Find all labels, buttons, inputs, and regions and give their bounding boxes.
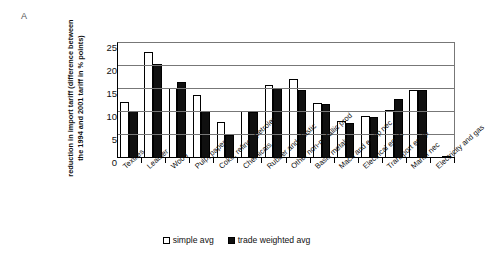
bar-group — [166, 43, 190, 158]
bar-simple-avg — [169, 88, 178, 158]
y-tick-label: 15 — [87, 88, 117, 89]
y-axis-ticks: 0510152025 — [83, 42, 117, 158]
bar-simple-avg — [193, 95, 202, 158]
legend-label-trade-weighted-avg: trade weighted avg — [238, 235, 311, 245]
gridline — [118, 111, 455, 112]
bar-group — [190, 43, 214, 158]
gridline — [118, 42, 455, 43]
gridline — [118, 88, 455, 89]
legend-label-simple-avg: simple avg — [173, 235, 214, 245]
panel-letter: A — [21, 11, 28, 21]
plot-right-edge — [454, 43, 455, 158]
legend-item-simple-avg: simple avg — [163, 235, 214, 245]
bars-container — [118, 43, 455, 158]
bar-trade-weighted-avg — [177, 82, 186, 158]
y-tick-label: 10 — [87, 111, 117, 112]
y-tick-label: 25 — [87, 42, 117, 43]
bar-group — [142, 43, 166, 158]
legend-swatch-trade-weighted-avg — [228, 237, 235, 244]
y-tick-label: 5 — [87, 134, 117, 135]
bar-group — [118, 43, 142, 158]
legend-item-trade-weighted-avg: trade weighted avg — [228, 235, 311, 245]
chart-legend: simple avg trade weighted avg — [0, 235, 473, 245]
gridline — [118, 65, 455, 66]
x-axis-labels: TextilesLeatherWoodPulp, paperCoke, refi… — [0, 158, 473, 238]
legend-swatch-simple-avg — [163, 237, 170, 244]
bar-simple-avg — [144, 52, 153, 158]
y-tick-label: 20 — [87, 65, 117, 66]
plot-area — [117, 42, 455, 158]
